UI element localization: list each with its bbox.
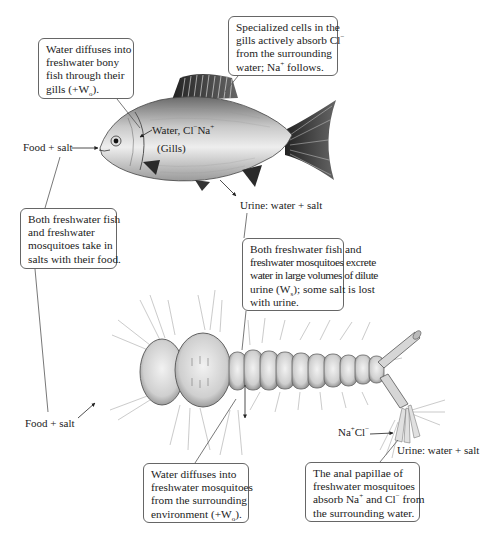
mosquito-larva-illustration [78,290,445,458]
callout-text: water; Na [236,61,280,73]
callout-line: Both freshwater fish [28,213,109,226]
callout-line: urine (Ws); some salt is lost [250,283,336,296]
callout-fish-water-diffuses: Water diffuses into freshwater bony fish… [38,38,134,99]
callout-line: Specialized cells in the [236,21,330,34]
label-text: Water, Cl [152,124,193,136]
callout-fish-specialized-cells: Specialized cells in the gills actively … [228,16,338,76]
callout-excrete-urine: Both freshwater fish and freshwater mosq… [242,238,344,311]
callout-line: freshwater mosquitoes excrete [250,256,336,269]
callout-text: ). [235,508,242,520]
callout-text: from [400,493,425,505]
label-text: Cl [355,426,365,438]
callout-line: water in large volumes of dilute [250,269,336,282]
superscript-plus: + [210,123,214,131]
callout-text: ). [93,83,100,95]
superscript-minus: − [340,33,344,41]
callout-line: freshwater mosquitoes [151,481,241,494]
callout-line: the surrounding water. [313,507,412,520]
label-mosquito-urine: Urine: water + salt [397,444,479,456]
label-mosquito-food-salt: Food + salt [25,417,75,429]
callout-line: environment (+Wo). [151,508,241,521]
superscript-minus: − [365,425,369,433]
callout-line: absorb Na+ and Cl− from [313,493,412,506]
callout-line: Water diffuses into [151,468,241,481]
callout-line: mosquitoes take in [28,239,109,252]
callout-line: freshwater mosquitoes [313,480,412,493]
callout-line: water; Na+ follows. [236,61,330,74]
callout-text: follows. [284,61,324,73]
callout-line: with urine. [250,296,336,309]
callout-line: freshwater bony [46,56,126,69]
label-mosquito-nacl: Na+Cl− [338,426,369,438]
callout-line: fish through their [46,69,126,82]
label-fish-urine: Urine: water + salt [240,199,322,211]
label-fish-gill-ions: Water, Cl−Na+ [152,124,214,136]
label-fish-gills: (Gills) [157,142,186,154]
callout-text: ); some salt is lost [293,283,375,295]
callout-line: gills actively absorb Cl− [236,34,330,47]
callout-line: from the surrounding [236,47,330,60]
callout-text: gills actively absorb Cl [236,34,340,46]
callout-salts-with-food: Both freshwater fish and freshwater mosq… [20,208,117,269]
callout-mosquito-water-diffuses: Water diffuses into freshwater mosquitoe… [143,463,249,523]
callout-anal-papillae: The anal papillae of freshwater mosquito… [305,462,420,522]
callout-text: environment (+W [151,508,232,520]
callout-line: The anal papillae of [313,467,412,480]
callout-line: Both freshwater fish and [250,243,336,256]
callout-text: urine (W [250,283,290,295]
callout-line: and freshwater [28,226,109,239]
callout-text: absorb Na [313,493,359,505]
callout-text: gills (+W [46,83,89,95]
callout-text: and Cl [363,493,396,505]
callout-line: salts with their food. [28,253,109,266]
callout-line: Water diffuses into [46,43,126,56]
callout-line: from the surrounding [151,494,241,507]
label-fish-food-salt: Food + salt [23,141,73,153]
label-text: Na [197,124,210,136]
label-text: Na [338,426,351,438]
callout-line: gills (+Wo). [46,83,126,96]
